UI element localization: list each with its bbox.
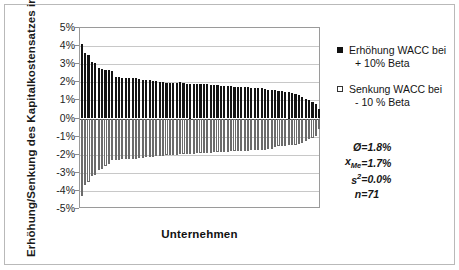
- bar-negative: [284, 119, 286, 146]
- stat-row-median: xMe = 1.7%: [345, 154, 391, 171]
- bar-positive: [199, 84, 201, 118]
- y-axis-tick-mark: [75, 27, 79, 28]
- bar-negative: [203, 119, 205, 154]
- legend-item-senkung-line2: - 10 % Beta: [349, 96, 449, 109]
- bar-positive: [230, 86, 232, 118]
- bar-positive: [284, 92, 286, 119]
- bar-negative: [125, 119, 127, 160]
- bar-positive: [182, 83, 184, 118]
- bar-positive: [111, 71, 113, 119]
- bar-positive: [165, 83, 167, 119]
- stat-median-symbol: xMe: [345, 154, 361, 171]
- bar-negative: [155, 119, 157, 157]
- bar-positive: [155, 81, 157, 118]
- bar-positive: [308, 100, 310, 118]
- stat-row-mean: Ø = 1.8%: [345, 140, 391, 154]
- bar-negative: [216, 119, 218, 153]
- bar-positive: [271, 90, 273, 119]
- legend-item-erhoehung-line1: Erhöhung WACC bei: [349, 44, 446, 56]
- stat-median-symbol-sub: Me: [351, 161, 361, 170]
- bar-negative: [165, 119, 167, 156]
- bar-positive: [247, 87, 249, 118]
- chart-figure: Erhöhung/Senkung des Kapitalkostensatzes…: [0, 0, 459, 270]
- stat-count-symbol: n: [345, 187, 361, 201]
- bar-negative: [308, 119, 310, 140]
- bar-positive: [108, 70, 110, 119]
- bar-negative: [277, 119, 279, 147]
- bar-positive: [98, 68, 100, 119]
- bar-negative: [138, 119, 140, 159]
- y-axis-tick-label: -1%: [31, 130, 75, 142]
- y-axis-tick-label: 1%: [31, 93, 75, 105]
- bar-positive: [294, 94, 296, 118]
- bar-negative: [152, 119, 154, 157]
- bar-negative: [162, 119, 164, 156]
- bar-positive: [264, 89, 266, 119]
- bar-positive: [132, 78, 134, 118]
- bar-positive: [179, 82, 181, 118]
- bar-negative: [257, 119, 259, 150]
- bar-negative: [182, 119, 184, 155]
- bar-positive: [193, 84, 195, 119]
- bar-negative: [189, 119, 191, 154]
- legend-item-senkung: Senkung WACC bei - 10 % Beta: [337, 83, 449, 109]
- bar-positive: [159, 82, 161, 119]
- bar-positive: [288, 92, 290, 118]
- plot-area: [79, 27, 320, 208]
- bar-negative: [220, 119, 222, 152]
- bar-positive: [135, 78, 137, 118]
- bar-positive: [318, 109, 320, 118]
- bar-negative: [230, 119, 232, 152]
- bar-positive: [257, 88, 259, 118]
- bar-negative: [115, 119, 117, 160]
- bar-negative: [149, 119, 151, 157]
- bar-positive: [301, 97, 303, 119]
- bar-positive: [186, 84, 188, 119]
- bar-negative: [240, 119, 242, 151]
- bar-positive: [169, 83, 171, 119]
- bar-negative: [264, 119, 266, 150]
- bar-negative: [318, 119, 320, 130]
- bar-positive: [138, 79, 140, 119]
- bar-positive: [101, 69, 103, 119]
- stat-count-value: 71: [367, 187, 391, 201]
- bar-positive: [240, 87, 242, 118]
- y-axis-tick-label: 3%: [31, 57, 75, 69]
- legend-item-erhoehung-line2: + 10% Beta: [349, 57, 449, 70]
- y-axis-tick-mark: [75, 118, 79, 119]
- bar-negative: [206, 119, 208, 153]
- bar-positive: [91, 62, 93, 118]
- bar-negative: [101, 119, 103, 170]
- bar-positive: [81, 44, 83, 118]
- filled-square-icon: [337, 47, 343, 53]
- bar-negative: [196, 119, 198, 154]
- bar-positive: [315, 104, 317, 118]
- bar-positive: [311, 102, 313, 118]
- bar-negative: [210, 119, 212, 153]
- y-axis-tick-label: 2%: [31, 75, 75, 87]
- y-axis-tick-label: -2%: [31, 148, 75, 160]
- bar-negative: [179, 119, 181, 155]
- bar-negative: [261, 119, 263, 150]
- bar-positive: [298, 95, 300, 119]
- bar-positive: [267, 90, 269, 119]
- bar-negative: [254, 119, 256, 151]
- bar-negative: [301, 119, 303, 143]
- bar-negative: [176, 119, 178, 155]
- y-axis-tick-labels: 5%4%3%2%1%0%-1%-2%-3%-4%-5%: [31, 27, 75, 208]
- bar-negative: [132, 119, 134, 159]
- stat-row-variance: s2 = 0.0%: [345, 171, 391, 187]
- bar-positive: [227, 86, 229, 118]
- y-axis-tick-label: 5%: [31, 21, 75, 33]
- bar-positive: [223, 86, 225, 118]
- y-axis-tick-mark: [75, 136, 79, 137]
- bar-positive: [233, 87, 235, 119]
- bar-positive: [281, 91, 283, 118]
- bar-positive: [172, 83, 174, 118]
- stat-variance-value: 0.0%: [367, 171, 391, 187]
- y-axis-tick-mark: [75, 208, 79, 209]
- bar-positive: [121, 78, 123, 119]
- bar-negative: [294, 119, 296, 145]
- bar-positive: [213, 85, 215, 119]
- bar-positive: [277, 91, 279, 118]
